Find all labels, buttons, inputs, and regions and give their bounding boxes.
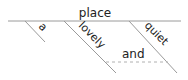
modifier-word-lovely: lovely	[76, 19, 109, 52]
conjunction-word: and	[122, 47, 145, 61]
sentence-diagram: place a lovely quiet and	[0, 0, 188, 80]
modifier-word-a: a	[36, 20, 50, 34]
head-word: place	[79, 6, 111, 20]
modifier-word-quiet: quiet	[142, 19, 172, 49]
